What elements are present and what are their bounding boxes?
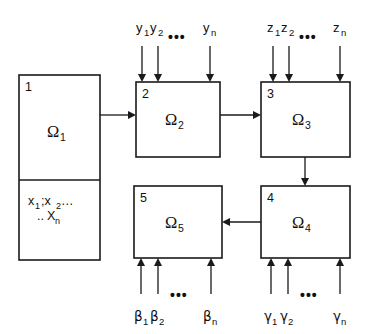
connector-block4-to-block5 — [222, 218, 261, 226]
input-gamma1-arrowhead — [267, 258, 275, 266]
label-betan-subscript: n — [212, 316, 217, 327]
label-beta2: β — [150, 308, 159, 324]
block-2[interactable]: 2 Ω 2 — [136, 82, 220, 157]
input-z2-arrowhead — [285, 74, 293, 82]
block-4-omega: Ω — [292, 213, 304, 232]
label-gamma2-subscript: 2 — [288, 316, 293, 327]
block-5-index: 5 — [140, 191, 147, 205]
connector-block1-to-block2-arrowhead — [128, 111, 136, 119]
connector-block4-to-block5-arrowhead — [222, 218, 230, 226]
block-3-omega-subscript: 3 — [305, 119, 311, 131]
input-group-beta: ••• β 1 β 2 β n — [134, 258, 217, 327]
input-group-z: z 1 z 2 ••• z n — [267, 20, 346, 82]
block-1-content-xn-subscript: n — [55, 216, 60, 226]
label-gamma-ellipsis: ••• — [300, 287, 318, 303]
connector-block3-to-block4 — [301, 157, 309, 186]
label-z1: z — [267, 20, 274, 35]
input-beta2-arrowhead — [154, 258, 162, 266]
label-y-ellipsis: ••• — [168, 29, 186, 45]
label-z1-subscript: 1 — [275, 27, 280, 38]
input-betan-arrowhead — [207, 258, 215, 266]
block-1-content-sep-x2: ;x — [41, 194, 51, 208]
block-4-index: 4 — [267, 191, 274, 205]
connector-block2-to-block3 — [220, 111, 261, 119]
connector-block1-to-block2 — [100, 111, 136, 119]
input-y2-arrowhead — [154, 74, 162, 82]
label-yn-subscript: n — [211, 27, 216, 38]
label-gamma2: γ — [280, 308, 288, 324]
connector-block3-to-block4-arrowhead — [301, 178, 309, 186]
input-gamma2-arrowhead — [284, 258, 292, 266]
diagram-canvas: 1 Ω 1 x 1 ;x 2 … .. X n 2 Ω 2 3 Ω 3 — [0, 0, 373, 334]
label-zn-subscript: n — [341, 27, 346, 38]
input-z1-arrowhead — [269, 74, 277, 82]
block-2-omega-subscript: 2 — [178, 119, 184, 131]
block-1-content-x1: x — [28, 194, 35, 208]
input-group-gamma: ••• γ 1 γ 2 γ n — [264, 258, 346, 327]
label-zn: z — [333, 20, 340, 35]
input-group-y: y 1 y 2 ••• y n — [136, 20, 216, 82]
label-z2: z — [281, 20, 288, 35]
input-zn-arrowhead — [336, 74, 344, 82]
block-5-omega-subscript: 5 — [178, 222, 184, 234]
label-gamma1-subscript: 1 — [272, 316, 277, 327]
label-beta-ellipsis: ••• — [170, 287, 188, 303]
block-3-index: 3 — [267, 87, 274, 101]
label-y2: y — [150, 20, 157, 35]
block-1-content-lead-dots: .. — [37, 209, 44, 223]
input-gamman-arrowhead — [336, 258, 344, 266]
block-1-outline — [19, 75, 100, 260]
block-1-omega: Ω — [47, 122, 59, 141]
input-yn-arrowhead — [206, 74, 214, 82]
block-1-content-ellipsis: … — [61, 194, 74, 208]
block-2-index: 2 — [142, 87, 149, 101]
label-yn: y — [203, 20, 210, 35]
block-1-omega-subscript: 1 — [60, 131, 66, 143]
label-betan: β — [203, 308, 212, 324]
label-y1: y — [136, 20, 143, 35]
block-1[interactable]: 1 Ω 1 x 1 ;x 2 … .. X n — [19, 75, 100, 260]
label-beta1-subscript: 1 — [143, 316, 148, 327]
block-5[interactable]: 5 Ω 5 — [134, 186, 222, 258]
block-5-omega: Ω — [165, 213, 177, 232]
block-flow-diagram: 1 Ω 1 x 1 ;x 2 … .. X n 2 Ω 2 3 Ω 3 — [0, 0, 373, 334]
label-y2-subscript: 2 — [158, 27, 163, 38]
block-3-omega: Ω — [292, 110, 304, 129]
input-beta1-arrowhead — [137, 258, 145, 266]
label-beta2-subscript: 2 — [159, 316, 164, 327]
label-gamman-subscript: n — [341, 316, 346, 327]
block-4-omega-subscript: 4 — [305, 222, 311, 234]
block-4[interactable]: 4 Ω 4 — [261, 186, 350, 258]
label-y1-subscript: 1 — [144, 27, 149, 38]
block-3[interactable]: 3 Ω 3 — [261, 82, 350, 157]
block-2-omega: Ω — [165, 110, 177, 129]
block-1-index: 1 — [25, 80, 32, 94]
label-z2-subscript: 2 — [289, 27, 294, 38]
label-gamma1: γ — [264, 308, 272, 324]
connector-block2-to-block3-arrowhead — [253, 111, 261, 119]
label-z-ellipsis: ••• — [299, 29, 317, 45]
label-gamman: γ — [333, 308, 341, 324]
input-y1-arrowhead — [138, 74, 146, 82]
label-beta1: β — [134, 308, 143, 324]
